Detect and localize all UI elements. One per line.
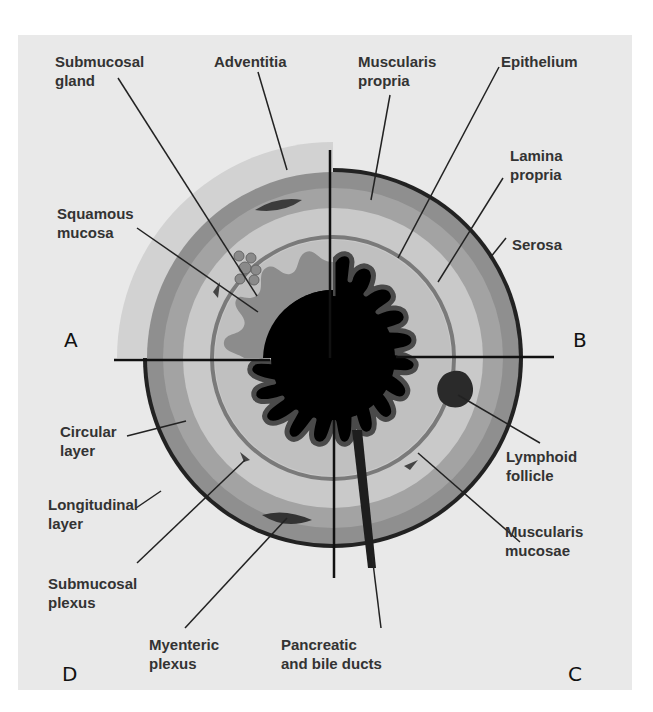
label-muscularis-propria: Muscularis propria bbox=[358, 52, 436, 90]
label-submucosal-gland: Submucosal gland bbox=[55, 52, 144, 90]
quadrant-label-c: C bbox=[568, 662, 582, 686]
label-lamina-propria: Lamina propria bbox=[510, 146, 563, 184]
quadrant-label-a: A bbox=[64, 328, 78, 352]
label-muscularis-mucosae: Muscularis mucosae bbox=[505, 522, 583, 560]
label-longitudinal-layer: Longitudinal layer bbox=[48, 495, 138, 533]
label-serosa: Serosa bbox=[512, 235, 562, 254]
quadrant-label-d: D bbox=[62, 662, 77, 686]
label-squamous-mucosa: Squamous mucosa bbox=[57, 204, 134, 242]
quadrant-label-b: B bbox=[573, 328, 587, 352]
label-adventitia: Adventitia bbox=[214, 52, 287, 71]
label-lymphoid-follicle: Lymphoid follicle bbox=[506, 447, 577, 485]
label-epithelium: Epithelium bbox=[501, 52, 578, 71]
label-submucosal-plexus: Submucosal plexus bbox=[48, 574, 137, 612]
label-myenteric-plexus: Myenteric plexus bbox=[149, 635, 219, 673]
label-pancreatic-bile-ducts: Pancreatic and bile ducts bbox=[281, 635, 382, 673]
label-circular-layer: Circular layer bbox=[60, 422, 117, 460]
